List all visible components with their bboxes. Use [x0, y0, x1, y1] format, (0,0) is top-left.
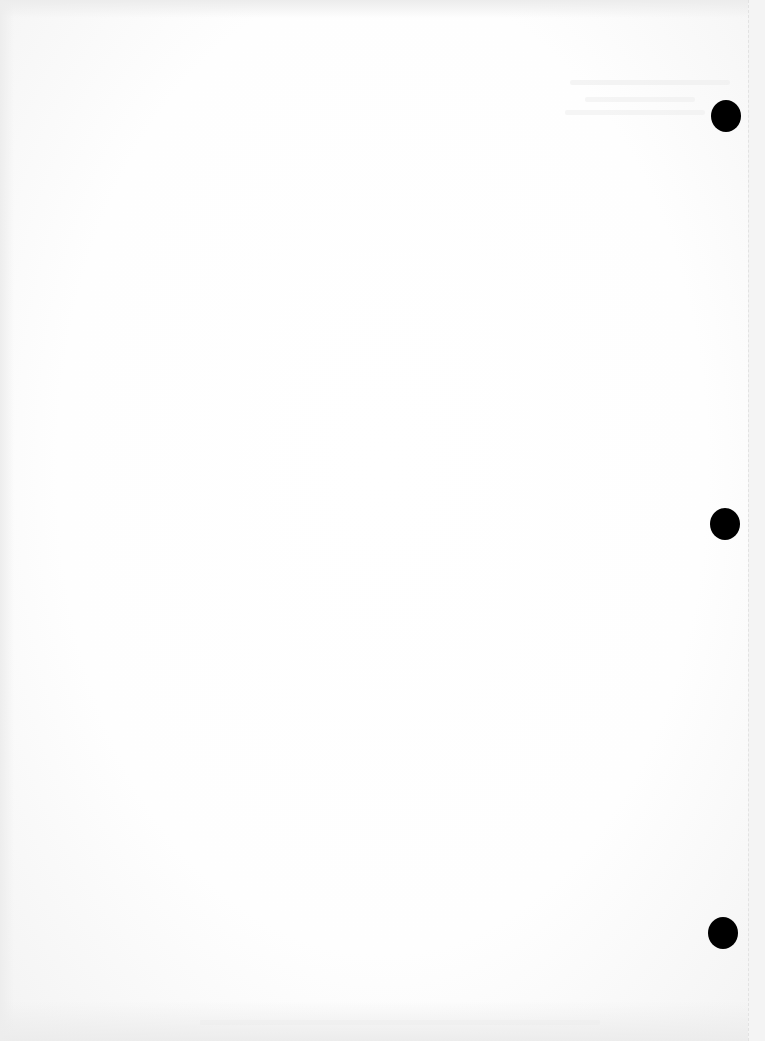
bleed-through-mark	[585, 97, 695, 102]
right-page-edge	[748, 0, 765, 1041]
punch-hole-bottom	[708, 917, 738, 949]
bleed-through-mark	[570, 80, 730, 85]
punch-hole-top	[711, 100, 741, 132]
top-edge-shading	[0, 0, 765, 18]
bleed-through-mark	[565, 110, 705, 115]
left-edge-shading	[0, 0, 14, 1041]
scanned-page	[0, 0, 765, 1041]
bleed-through-mark	[200, 1020, 600, 1025]
punch-hole-middle	[710, 508, 740, 540]
